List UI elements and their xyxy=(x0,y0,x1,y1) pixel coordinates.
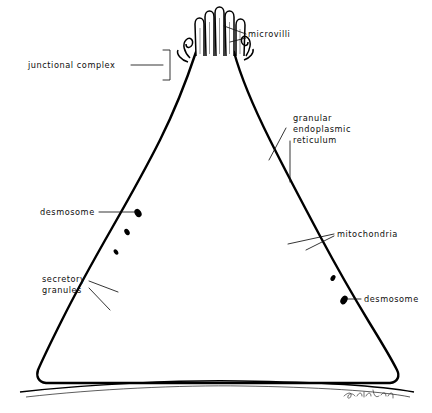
label-microvilli: microvilli xyxy=(248,29,290,39)
label-desmosome-right: desmosome xyxy=(364,294,419,304)
label-secretory-line1: secretory xyxy=(42,274,85,284)
label-ger-line3: reticulum xyxy=(293,135,337,145)
label-junctional-complex: junctional complex xyxy=(27,60,115,70)
label-ger-line1: granular xyxy=(293,113,332,123)
label-ger-line2: endoplasmic xyxy=(293,124,351,134)
cell-diagram-figure: microvilli junctional complex granular e… xyxy=(0,0,432,413)
cell-diagram-canvas: microvilli junctional complex granular e… xyxy=(0,0,432,413)
microvillus-5 xyxy=(236,19,245,56)
label-desmosome-left: desmosome xyxy=(40,207,95,217)
microvillus-1 xyxy=(195,18,204,56)
label-mitochondria: mitochondria xyxy=(337,229,398,239)
label-secretory-granules: secretory granules xyxy=(42,274,85,295)
label-secretory-line2: granules xyxy=(42,285,82,295)
